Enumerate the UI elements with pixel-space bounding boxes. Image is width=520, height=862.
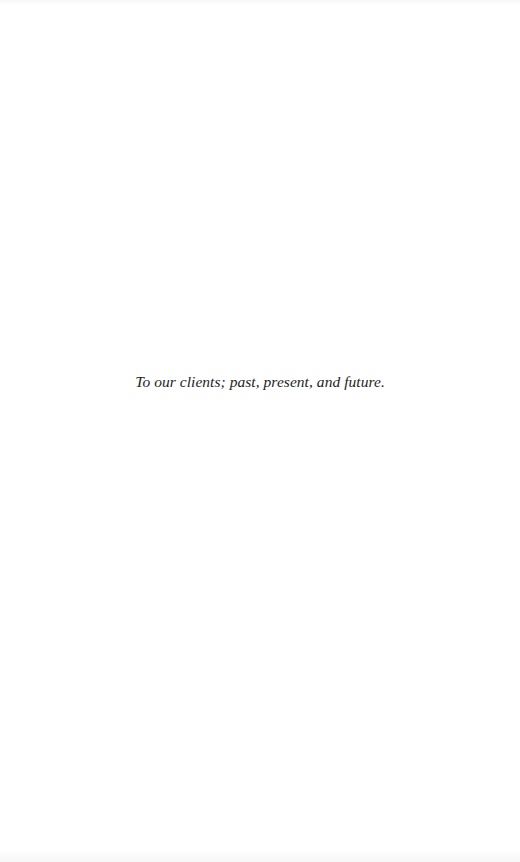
book-page: To our clients; past, present, and futur… [0,0,520,862]
dedication-text: To our clients; past, present, and futur… [0,372,520,392]
